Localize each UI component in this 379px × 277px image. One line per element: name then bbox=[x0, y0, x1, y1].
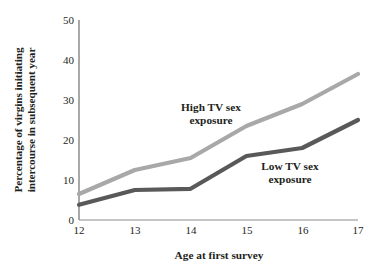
axes bbox=[79, 20, 358, 220]
plot-area bbox=[0, 0, 379, 277]
series-lines bbox=[79, 74, 358, 205]
chart-figure: Percentage of virgins initiating interco… bbox=[0, 0, 379, 277]
series-line-low-tv-sex-exposure bbox=[79, 120, 358, 205]
series-line-high-tv-sex-exposure bbox=[79, 74, 358, 194]
